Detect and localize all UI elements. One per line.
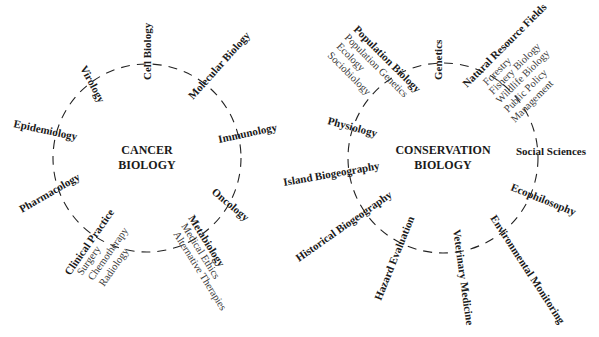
field-immunology: Immunology [217,121,279,145]
conservation-biology-diagram: CONSERVATION BIOLOGY Genetics Natural Re… [282,0,586,326]
field-veterinary-medicine: Veterinary Medicine [451,229,476,326]
field-genetics: Genetics [432,39,444,80]
field-group-clinical-practice: Clinical Practice Surgery Chemotherapy R… [62,206,131,288]
field-island-biogeography: Island Biogeography [282,159,381,188]
field-hazard-evaluation: Hazard Evaluation [372,214,417,302]
field-physiology: Physiology [326,114,379,139]
field-group-population-biology: Population Biology Population Genetics E… [326,23,424,100]
cancer-biology-diagram: CANCER BIOLOGY Cell Biology Molecular Bi… [13,22,279,312]
field-group-metabiology: Metabiology Medical Ethics Alternative T… [171,213,229,313]
field-oncology: Oncology [210,185,252,223]
field-group-natural-resource-fields: Natural Resource Fields Forestry Fishery… [460,0,555,124]
field-environmental-monitoring: Environmental Monitoring [488,213,568,327]
field-historical-biogeography: Historical Biogeography [293,188,394,264]
conservation-title-line1: CONSERVATION [395,143,490,157]
conservation-title-line2: BIOLOGY [414,158,472,172]
field-virology: Virology [78,63,108,105]
cancer-title-line2: BIOLOGY [118,158,176,172]
cancer-title-line1: CANCER [121,143,173,157]
field-epidemiology: Epidemiology [13,117,79,142]
field-molecular-biology: Molecular Biology [186,29,253,102]
field-social-sciences: Social Sciences [516,145,587,157]
field-cell-biology: Cell Biology [141,22,153,80]
field-ecophilosophy: Ecophilosophy [509,181,578,218]
field-pharmacology: Pharmacology [17,170,82,215]
diagram-canvas: CANCER BIOLOGY Cell Biology Molecular Bi… [0,0,599,337]
